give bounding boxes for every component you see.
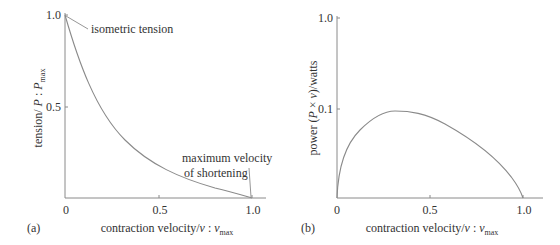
- chart-b-xtick-label-1: 1.0: [517, 203, 532, 217]
- chart-a-xtick-label-0: 0: [63, 203, 69, 217]
- chart-a-panel-label: (a): [27, 221, 40, 235]
- chart-a-ytick-label-05: 0.5: [46, 100, 61, 114]
- chart-b-ytick-label-01: 0.1: [318, 102, 333, 116]
- chart-a-annotation-maxvel-line1: maximum velocity: [182, 151, 272, 165]
- chart-b-x-label: contraction velocity/v : vmax: [366, 221, 499, 237]
- chart-b-xtick-label-0: 0: [334, 203, 340, 217]
- chart-a-xtick-label-1: 1.0: [246, 203, 261, 217]
- chart-a-ytick-label-1: 1.0: [46, 8, 61, 22]
- figure: 1.0 0.5 0 0.5 1.0 isometric tension maxi…: [0, 0, 560, 245]
- chart-a-annotation-maxvel-line2: of shortening: [184, 166, 248, 180]
- chart-b: 1.0 0.1 0 0.5 1.0 power (P × v)/watts co…: [301, 11, 543, 237]
- chart-a-maxvel-leader: [249, 168, 251, 197]
- chart-a-y-label: tension/ P : Pmax: [31, 69, 47, 148]
- chart-a-annotation-isometric: isometric tension: [91, 22, 173, 36]
- chart-b-ytick-label-1: 1.0: [318, 11, 333, 25]
- chart-a-isometric-leader: [66, 16, 88, 29]
- chart-a-xtick-label-05: 0.5: [153, 203, 168, 217]
- chart-b-xtick-label-05: 0.5: [423, 203, 438, 217]
- chart-a: 1.0 0.5 0 0.5 1.0 isometric tension maxi…: [27, 8, 272, 237]
- chart-b-power-curve: [337, 111, 523, 198]
- chart-b-panel-label: (b): [301, 221, 315, 235]
- chart-b-y-label: power (P × v)/watts: [306, 60, 320, 155]
- chart-a-x-label: contraction velocity/v : vmax: [101, 221, 234, 237]
